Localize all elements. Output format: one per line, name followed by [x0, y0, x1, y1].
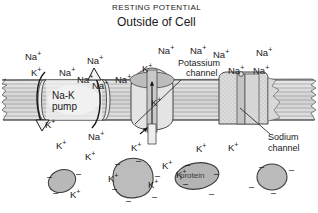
outside-ion-label: Na+: [115, 73, 131, 85]
negative-charge: –: [214, 170, 219, 179]
pump-label-line1: Na-K: [52, 91, 75, 101]
outside-ion-label: Na+: [92, 79, 108, 91]
channel-ion-label: K+: [151, 96, 161, 108]
sodium-channel-label-line2: channel: [268, 143, 300, 153]
negative-charge: –: [209, 190, 214, 199]
negative-charge: –: [271, 189, 276, 198]
outside-ion-label: Na+: [190, 44, 206, 56]
inside-ion-label: K+: [56, 139, 66, 151]
inside-ion-label: K+: [108, 172, 118, 184]
negative-charge: –: [53, 189, 58, 198]
outside-ion-label: Na+: [158, 44, 174, 56]
negative-charge: –: [249, 183, 254, 192]
outside-ion-label: Na+: [87, 54, 103, 66]
figure-title: RESTING POTENTIAL: [112, 4, 201, 12]
inside-ion-label: K+: [131, 141, 141, 153]
outside-ion-label: Na+: [59, 66, 75, 78]
outside-ion-label: Na+: [228, 64, 244, 76]
outside-ion-label: K+: [142, 62, 152, 74]
negative-charge: –: [112, 185, 117, 194]
negative-charge: –: [259, 163, 264, 172]
negative-charge: –: [289, 166, 294, 175]
inside-ion-label: K+: [196, 142, 206, 154]
inside-ion-label: K+: [70, 188, 80, 200]
negative-charge: –: [115, 160, 120, 169]
outside-ion-label: Na+: [253, 64, 269, 76]
pump-ion-label: Na+: [77, 73, 93, 85]
negative-charge: –: [47, 173, 52, 182]
sodium-channel[interactable]: [219, 72, 280, 134]
negative-charge: –: [183, 180, 188, 189]
figure-subtitle: Outside of Cell: [117, 16, 196, 28]
outside-ion-label: Na+: [256, 46, 272, 58]
negative-charge: –: [152, 193, 157, 202]
outside-ion-label: K+: [31, 66, 41, 78]
inside-ion-label: K+: [162, 159, 172, 171]
inside-ion-label: K+: [228, 141, 238, 153]
figure-canvas: RESTING POTENTIAL Outside of Cell Potass…: [0, 0, 318, 213]
potassium-channel-label-line2: channel: [186, 68, 218, 78]
outside-ion-label: Na+: [213, 48, 229, 60]
negative-charge: –: [136, 157, 141, 166]
inside-ion-label: K+: [85, 150, 95, 162]
negative-charge: –: [126, 197, 131, 206]
negative-charge: –: [185, 161, 190, 170]
negative-charge: –: [76, 170, 81, 179]
outside-ion-label: Na+: [25, 50, 41, 62]
pump-label-line2: pump: [52, 102, 77, 112]
negative-charge: –: [155, 172, 160, 181]
sodium-channel-label-line1: Sodium: [268, 132, 299, 142]
pump-ion-label: K+: [45, 118, 55, 130]
inside-ion-label: Na+: [88, 130, 104, 142]
